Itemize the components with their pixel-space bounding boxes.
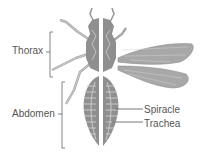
thorax-bracket [46,32,53,77]
legs-right [114,28,126,40]
center-divider [99,14,103,149]
spiracle-label: Spiracle [144,104,180,116]
legs-left [52,20,90,104]
wings [118,44,193,88]
abdomen-bracket [58,82,65,148]
insect-illustration [0,0,202,155]
abdomen-label: Abdomen [12,108,55,120]
insect-anatomy-diagram: Thorax Abdomen Spiracle Trachea [0,0,202,155]
trachea-label: Trachea [144,118,180,130]
thorax-label: Thorax [12,45,43,57]
